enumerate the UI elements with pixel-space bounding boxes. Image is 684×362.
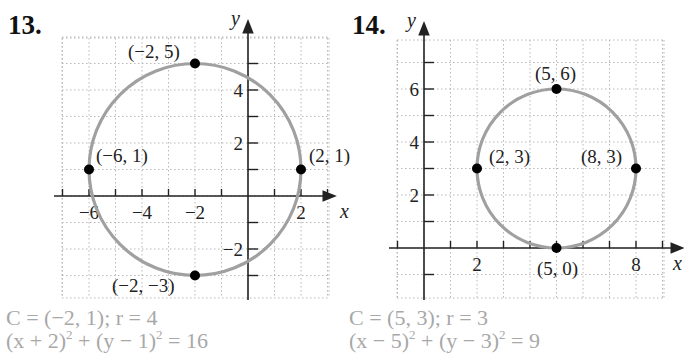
x-tick-label: 2: [472, 254, 482, 275]
point-label: (−2, −3): [112, 275, 175, 297]
point-label: (2, 1): [309, 145, 350, 167]
problem-number-13: 13.: [8, 10, 42, 40]
data-point: [296, 165, 306, 175]
grid: [62, 37, 329, 298]
point-label: (−6, 1): [96, 145, 148, 167]
data-point: [631, 164, 641, 174]
data-point: [472, 164, 482, 174]
y-axis-label: y: [405, 9, 416, 32]
data-point: [190, 271, 200, 281]
answer-center-13: C = (−2, 1); r = 4: [6, 307, 158, 329]
y-tick-label: 6: [410, 79, 420, 100]
grid: [397, 40, 664, 298]
y-tick-label: 4: [234, 80, 244, 101]
x-tick-label: 2: [296, 202, 306, 223]
point-label: (8, 3): [581, 146, 622, 168]
data-point: [84, 165, 94, 175]
answer-equation-14: (x − 5)2 + (y − 3)2 = 9: [349, 330, 540, 352]
data-point: [190, 59, 200, 69]
problem-number-14: 14.: [352, 10, 386, 40]
x-axis-label: x: [672, 252, 682, 274]
answer-center-14: C = (5, 3); r = 3: [349, 307, 488, 329]
data-point: [552, 243, 562, 253]
y-axis-label: y: [229, 7, 240, 30]
chart-13: xy−6−4−2242−2(−2, 5)(−6, 1)(2, 1)(−2, −3…: [54, 7, 350, 300]
data-point: [552, 84, 562, 94]
x-tick-label: 8: [631, 254, 641, 275]
chart-14: xy28642(5, 6)(2, 3)(8, 3)(5, 0): [389, 9, 682, 300]
point-label: (−2, 5): [128, 41, 180, 63]
y-tick-label: 4: [410, 132, 420, 153]
x-axis-label: x: [339, 200, 349, 222]
y-tick-label: 2: [234, 133, 244, 154]
y-tick-label: −2: [223, 239, 243, 260]
point-label: (5, 6): [535, 63, 576, 85]
y-tick-label: 2: [410, 185, 420, 206]
point-label: (5, 0): [537, 258, 578, 280]
x-tick-label: −4: [132, 202, 153, 223]
point-label: (2, 3): [489, 146, 530, 168]
x-tick-label: −2: [185, 202, 205, 223]
answer-equation-13: (x + 2)2 + (y − 1)2 = 16: [6, 330, 208, 352]
